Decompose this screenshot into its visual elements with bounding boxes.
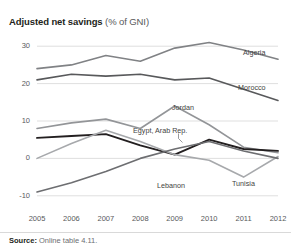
series-line-egypt-arab-rep: [37, 134, 278, 155]
top-rule: [0, 6, 291, 7]
source-label: Source:: [9, 236, 37, 245]
series-label-lebanon: Lebanon: [157, 181, 185, 190]
series-lines: [37, 42, 278, 192]
y-tick-label: 20: [8, 79, 30, 88]
chart-title-main: Adjusted net savings: [9, 16, 103, 27]
x-tick-label: 2009: [160, 214, 190, 223]
gridlines: [37, 46, 278, 196]
x-tick-label: 2012: [263, 214, 291, 223]
x-tick-label: 2010: [194, 214, 224, 223]
chart-title-sub: (% of GNI): [105, 16, 149, 27]
series-label-jordan: Jordan: [172, 103, 194, 112]
series-label-morocco: Morocco: [238, 83, 266, 92]
figure: Adjusted net savings (% of GNI) -1001020…: [0, 0, 291, 252]
y-tick-label: 30: [8, 41, 30, 50]
y-tick-label: 0: [8, 153, 30, 162]
source-text: Online table 4.11.: [39, 236, 97, 245]
y-tick-label: -10: [8, 191, 30, 200]
series-label-algeria: Algeria: [243, 48, 265, 57]
x-tick-label: 2005: [22, 214, 52, 223]
source-note: Source: Online table 4.11.: [9, 236, 97, 245]
y-tick-label: 10: [8, 116, 30, 125]
x-tick-label: 2008: [125, 214, 155, 223]
x-tick-label: 2007: [91, 214, 121, 223]
x-tick-label: 2006: [56, 214, 86, 223]
series-label-tunisia: Tunisia: [232, 179, 255, 188]
x-tick-label: 2011: [229, 214, 259, 223]
series-label-egypt-arab-rep: Egypt, Arab Rep.: [133, 126, 187, 135]
chart-title: Adjusted net savings (% of GNI): [9, 16, 149, 27]
